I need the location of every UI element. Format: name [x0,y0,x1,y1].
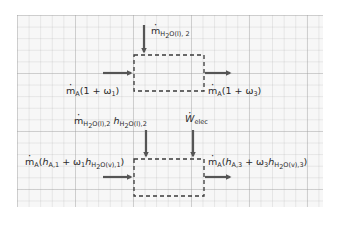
plus-omega: + ω [242,156,264,167]
label-bottom-electric-work: Welec [185,114,208,126]
plus-omega: + ω [59,156,81,167]
work-rate-symbol: W [185,114,194,124]
expr-body: (1 + ω [80,85,112,96]
sub-elec: elec [194,118,207,126]
label-top-air-inflow: mA(1 + ω1) [66,86,119,98]
sub-o-l-2: O(l),2 [129,120,147,128]
mass-flow-symbol: m [151,26,160,36]
sub-o-v-3: O(v),3 [283,161,303,169]
mass-flow-symbol: m [208,86,217,96]
paren-close: ) [121,156,125,167]
label-top-air-outflow: mA(1 + ω3) [208,86,261,98]
paren-close: ) [304,156,308,167]
label-top-water-inflow: mH2O(l), 2 [151,26,190,40]
paren-close: ) [258,85,262,96]
sub-o-l-2: O(l),2 [92,120,110,128]
bottom-control-volume [134,159,204,196]
sub-o-l-2: O(l), 2 [169,30,189,38]
top-control-volume [134,55,204,91]
mass-flow-symbol: m [208,157,217,167]
label-bottom-water-energy-inflow: mH2O(l),2 hH2O(l),2 [74,116,147,130]
paren-close: ) [116,85,120,96]
expr-body: (1 + ω [222,85,254,96]
label-bottom-air-energy-inflow: mA(hA,1 + ω1hH2O(v),1) [25,157,124,171]
sub-a-1: A,1 [48,161,59,169]
sub-a-3: A,3 [231,161,242,169]
mass-flow-symbol: m [25,157,34,167]
sub-o-v-1: O(v),1 [100,161,120,169]
label-bottom-air-energy-outflow: mA(hA,3 + ω3hH2O(v),3) [208,157,307,171]
mass-flow-symbol: m [66,86,75,96]
mass-flow-symbol: m [74,116,83,126]
